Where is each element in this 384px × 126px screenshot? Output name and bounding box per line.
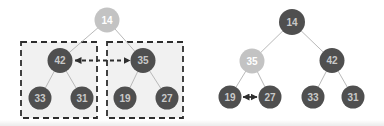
right-tree-node-35: 35: [240, 49, 265, 74]
right-tree-node-31: 31: [342, 86, 365, 109]
right-tree-node-42: 42: [320, 48, 345, 73]
right-tree-node-27: 27: [259, 86, 282, 109]
left-tree-node-14: 14: [95, 8, 120, 33]
left-tree-node-label-35: 35: [137, 55, 149, 66]
right-tree: 14354219273331: [219, 9, 365, 109]
right-tree-node-label-42: 42: [326, 55, 338, 66]
left-tree-node-31: 31: [71, 87, 94, 110]
binary-tree-swap-diagram: 1442353331192714354219273331: [0, 0, 384, 126]
left-tree-node-35: 35: [131, 48, 156, 73]
left-tree-node-label-14: 14: [101, 15, 113, 26]
left-tree-node-label-19: 19: [119, 93, 131, 104]
left-tree-node-label-42: 42: [54, 55, 66, 66]
right-tree-node-label-33: 33: [307, 92, 319, 103]
right-tree-node-label-31: 31: [347, 92, 359, 103]
diagram-canvas: 1442353331192714354219273331: [0, 0, 384, 126]
right-tree-node-19: 19: [219, 86, 242, 109]
right-tree-node-label-14: 14: [286, 17, 298, 28]
right-tree-node-33: 33: [302, 86, 325, 109]
left-tree: 14423533311927: [21, 8, 183, 119]
right-tree-node-14: 14: [279, 9, 305, 35]
left-tree-node-42: 42: [48, 48, 73, 73]
left-tree-node-27: 27: [156, 87, 179, 110]
right-tree-node-label-35: 35: [246, 56, 258, 67]
right-tree-node-label-19: 19: [224, 92, 236, 103]
left-tree-node-label-31: 31: [76, 93, 88, 104]
left-tree-node-label-27: 27: [161, 93, 173, 104]
left-tree-node-label-33: 33: [34, 93, 46, 104]
left-tree-node-19: 19: [114, 87, 137, 110]
left-tree-node-33: 33: [29, 87, 52, 110]
right-tree-node-label-27: 27: [264, 92, 276, 103]
